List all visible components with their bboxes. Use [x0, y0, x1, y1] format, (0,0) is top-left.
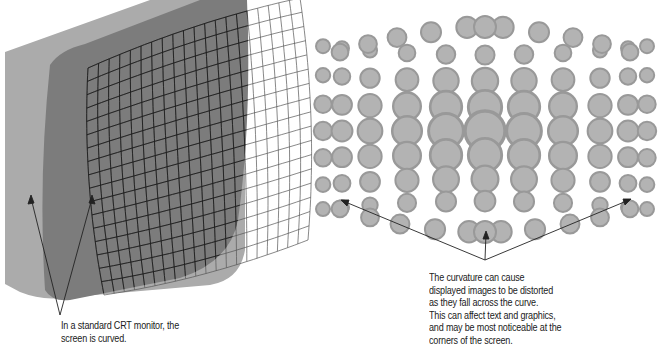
distorted-circle — [360, 68, 379, 87]
distorted-circle — [588, 145, 611, 168]
distorted-circle — [316, 68, 330, 82]
distorted-circle — [529, 22, 549, 42]
distorted-circle — [358, 119, 383, 144]
distorted-circle — [564, 28, 583, 47]
distorted-circle — [590, 172, 610, 192]
distorted-circle — [421, 22, 441, 42]
distorted-circle — [398, 194, 416, 212]
distorted-circle — [620, 68, 636, 84]
distorted-circle — [314, 122, 332, 140]
distorted-circle — [618, 147, 638, 167]
distorted-circle — [474, 221, 496, 243]
distorted-circle — [593, 35, 611, 53]
caption-line: and may be most noticeable at the — [429, 321, 561, 334]
distorted-circle — [638, 122, 656, 140]
distorted-circle — [314, 149, 331, 166]
distorted-circle — [433, 166, 459, 192]
distorted-circle — [549, 142, 577, 170]
distorted-circle — [514, 191, 534, 211]
distorted-circle — [511, 166, 537, 192]
distorted-circle — [555, 45, 572, 62]
distorted-circle — [358, 94, 381, 117]
distorted-circle — [552, 68, 575, 91]
distorted-circle — [474, 16, 496, 38]
caption-line: corners of the screen. — [429, 334, 561, 347]
distorted-circle — [358, 145, 381, 168]
distorted-circle — [618, 95, 638, 115]
distorted-circle — [334, 68, 350, 84]
distorted-circle — [588, 119, 613, 144]
distorted-circle — [640, 39, 654, 53]
caption-distortion: The curvature can cause displayed images… — [429, 271, 561, 346]
distorted-circle — [638, 149, 655, 166]
distorted-circle — [314, 96, 331, 113]
distorted-circle — [515, 45, 533, 63]
distorted-circle — [472, 166, 499, 193]
distorted-circle — [436, 191, 456, 211]
distorted-circle — [360, 172, 380, 192]
distorted-circle — [332, 44, 349, 61]
distorted-circle — [511, 68, 536, 93]
distorted-circle — [551, 169, 574, 192]
caption-line: In a standard CRT monitor, the — [61, 319, 179, 332]
distorted-circle — [620, 175, 637, 192]
distorted-circle — [640, 202, 654, 216]
caption-line: The curvature can cause — [429, 271, 561, 284]
distorted-circle — [618, 121, 639, 142]
distorted-circle — [437, 45, 455, 63]
caption-crt-curved: In a standard CRT monitor, the screen is… — [61, 319, 179, 344]
distorted-circle — [316, 202, 330, 216]
distorted-circle — [590, 68, 609, 87]
distorted-circle — [475, 45, 494, 64]
caption-line: screen is curved. — [61, 332, 179, 345]
distorted-circle — [391, 215, 410, 234]
distorted-circle — [393, 142, 421, 170]
distorted-circle — [396, 68, 419, 91]
caption-line: displayed images to be distorted — [429, 284, 561, 297]
distorted-circle — [622, 44, 639, 61]
distorted-circle — [332, 147, 352, 167]
distorted-circle — [395, 169, 418, 192]
distorted-circle — [638, 96, 655, 113]
distorted-circle — [334, 175, 351, 192]
distorted-circle — [388, 28, 407, 47]
distorted-circle — [588, 94, 611, 117]
distorted-circle — [316, 39, 330, 53]
distorted-circle — [591, 209, 609, 227]
distorted-circle — [316, 177, 331, 192]
distorted-circle — [332, 121, 353, 142]
distorted-circle — [359, 35, 377, 53]
distorted-circle — [433, 68, 458, 93]
caption-line: This can affect text and graphics, — [429, 309, 561, 322]
distorted-circle-grid — [314, 16, 656, 243]
distorted-circle — [361, 209, 379, 227]
crt-curvature-illustration — [0, 0, 664, 347]
distorted-circle — [640, 68, 654, 82]
distorted-circle — [554, 194, 572, 212]
distorted-circle — [475, 191, 496, 212]
distorted-circle — [332, 95, 352, 115]
diagram-stage: In a standard CRT monitor, the screen is… — [0, 0, 664, 347]
distorted-circle — [640, 177, 655, 192]
distorted-circle — [399, 45, 416, 62]
distorted-circle — [561, 215, 580, 234]
caption-line: as they fall across the curve. — [429, 296, 561, 309]
